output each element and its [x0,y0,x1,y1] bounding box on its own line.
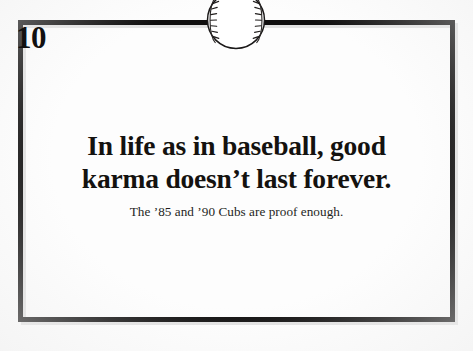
book-page: 10 In life as in baseball, good karma do… [0,0,473,351]
page-title: In life as in baseball, good karma doesn… [24,130,449,195]
headline-line-2: karma doesn’t last forever. [82,163,391,194]
page-content: In life as in baseball, good karma doesn… [24,130,449,221]
headline-line-1: In life as in baseball, good [87,130,386,161]
baseball-icon [205,0,267,51]
chapter-number: 10 [0,0,62,62]
page-subtitle: The ’85 and ’90 Cubs are proof enough. [24,203,449,220]
